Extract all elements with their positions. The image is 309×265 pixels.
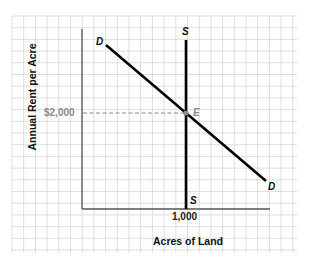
grid bbox=[12, 16, 297, 253]
supply-label-top: S bbox=[182, 26, 189, 37]
y-axis-title: Annual Rent per Acre bbox=[26, 42, 38, 152]
equilibrium-label: E bbox=[193, 107, 200, 118]
demand-label-end: D bbox=[268, 181, 275, 192]
equilibrium-point bbox=[183, 110, 188, 115]
supply-label-bottom: S bbox=[190, 195, 197, 206]
x-tick-label: 1,000 bbox=[172, 211, 197, 222]
x-axis-title: Acres of Land bbox=[153, 235, 223, 247]
chart-canvas bbox=[0, 0, 309, 265]
demand-label-start: D bbox=[96, 36, 103, 47]
y-tick-label: $2,000 bbox=[44, 107, 75, 118]
